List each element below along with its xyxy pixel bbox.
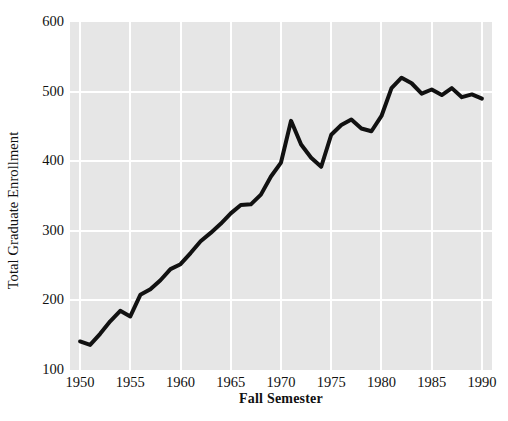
chart-figure: Total Graduate Enrollment 10020030040050…: [0, 0, 508, 421]
y-axis-tick-label: 500: [6, 84, 64, 98]
x-axis-title: Fall Semester: [70, 391, 492, 407]
y-axis-tick-label: 400: [6, 153, 64, 167]
x-axis-tick-label: 1990: [452, 374, 508, 391]
plot-panel: [70, 22, 492, 370]
y-axis-tick-label: 600: [6, 14, 64, 28]
data-line-series: [70, 22, 492, 370]
y-axis-tick-label: 200: [6, 292, 64, 306]
y-axis-tick-label: 300: [6, 223, 64, 237]
y-axis-tick-labels: 100200300400500600: [0, 0, 64, 421]
